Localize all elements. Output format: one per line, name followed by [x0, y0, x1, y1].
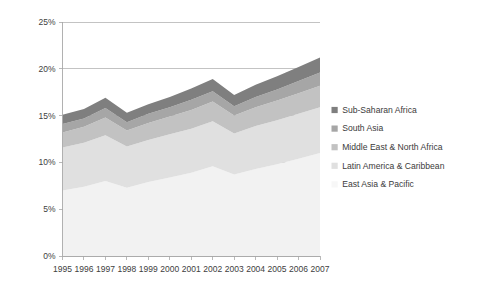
legend-label: Sub-Saharan Africa — [342, 105, 417, 115]
legend-swatch-icon — [332, 144, 338, 150]
legend-item-middle-east-north-africa[interactable]: Middle East & North Africa — [332, 142, 443, 152]
legend-swatch-icon — [332, 107, 338, 113]
chart-canvas: 0%5%10%15%20%25% 19951996199719981999200… — [0, 0, 477, 288]
legend-label: East Asia & Pacific — [342, 179, 414, 189]
stacked-area-chart: 0%5%10%15%20%25% 19951996199719981999200… — [0, 0, 477, 288]
x-tick-label-1999: 1999 — [139, 264, 158, 274]
legend-label: South Asia — [342, 123, 383, 133]
y-tick-label-20%: 20% — [38, 64, 55, 74]
x-tick-label-2002: 2002 — [203, 264, 222, 274]
legend-label: Latin America & Caribbean — [342, 161, 444, 171]
legend-item-east-asia-pacific[interactable]: East Asia & Pacific — [332, 179, 415, 189]
x-tick-label-2003: 2003 — [225, 264, 244, 274]
x-tick-label-2000: 2000 — [160, 264, 179, 274]
legend-item-latin-america-caribbean[interactable]: Latin America & Caribbean — [332, 161, 445, 171]
x-tick-label-1998: 1998 — [117, 264, 136, 274]
y-tick-label-0%: 0% — [43, 251, 56, 261]
y-tick-label-5%: 5% — [43, 204, 56, 214]
y-tick-label-10%: 10% — [38, 157, 55, 167]
legend-swatch-icon — [332, 126, 338, 132]
y-tick-label-15%: 15% — [38, 111, 55, 121]
x-tick-label-2006: 2006 — [289, 264, 308, 274]
x-tick-label-2007: 2007 — [311, 264, 330, 274]
x-tick-label-1996: 1996 — [74, 264, 93, 274]
legend-item-sub-saharan-africa[interactable]: Sub-Saharan Africa — [332, 105, 417, 115]
x-tick-label-1997: 1997 — [96, 264, 115, 274]
y-tick-label-25%: 25% — [38, 17, 55, 27]
x-tick-label-2001: 2001 — [182, 264, 201, 274]
x-tick-label-1995: 1995 — [53, 264, 72, 274]
legend-swatch-icon — [332, 181, 338, 187]
legend-label: Middle East & North Africa — [342, 142, 443, 152]
x-tick-label-2005: 2005 — [268, 264, 287, 274]
legend-swatch-icon — [332, 163, 338, 169]
x-tick-label-2004: 2004 — [246, 264, 265, 274]
